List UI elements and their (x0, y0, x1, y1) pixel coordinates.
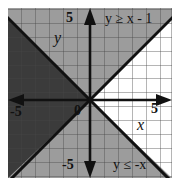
bottom-inequality-label: y ≤ -x (113, 158, 146, 172)
y-axis-min-label: -5 (62, 158, 74, 172)
top-inequality-label: y ≥ x - 1 (105, 12, 152, 26)
coordinate-axes (8, 8, 172, 178)
y-axis-max-label: 5 (66, 11, 73, 25)
origin-label: 0 (74, 104, 81, 118)
x-axis-name-label: x (137, 117, 144, 133)
inequality-graph-figure: 5 -5 -5 5 0 y x y ≥ x - 1 y ≤ -x (0, 0, 176, 185)
x-axis-right-arrow-icon (156, 94, 172, 106)
plot-area (8, 8, 172, 178)
y-axis-up-arrow-icon (84, 8, 96, 25)
x-axis-min-label: -5 (10, 105, 22, 119)
y-axis-name-label: y (54, 30, 61, 46)
y-axis-down-arrow-icon (84, 161, 96, 178)
x-axis-max-label: 5 (151, 102, 158, 116)
